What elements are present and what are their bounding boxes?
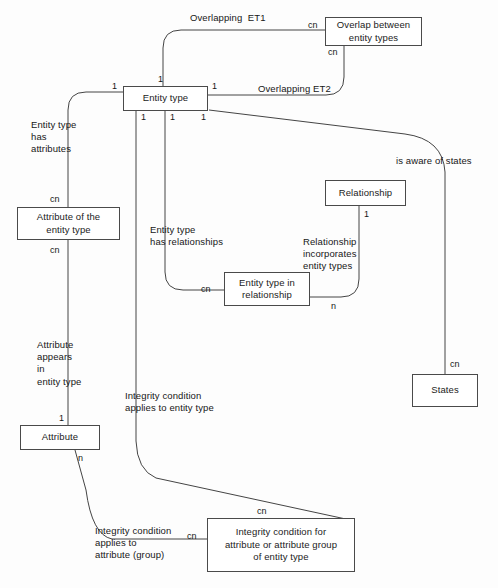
edge-entity-type-has-relationships: [165, 111, 224, 290]
cardinality-attribute-top: 1: [59, 413, 64, 423]
cardinality-attribute-of-et-bottom: cn: [50, 245, 60, 255]
cardinality-attribute-of-et-top: cn: [50, 194, 60, 204]
cardinality-overlap-left: cn: [308, 20, 318, 30]
entity-box-states[interactable]: States: [412, 374, 478, 407]
cardinality-entity-type-in-relationship-right: n: [331, 301, 336, 311]
label-attribute-appears-in-entity-type: Attribute appears in entity type: [37, 339, 81, 388]
cardinality-states-top: cn: [450, 359, 460, 369]
label-entity-type-has-relationships: Entity type has relationships: [150, 224, 223, 248]
entity-label: Relationship: [339, 187, 392, 200]
cardinality-relationship-bottom: 1: [364, 209, 369, 219]
entity-box-attribute[interactable]: Attribute: [20, 425, 100, 450]
entity-box-entity-type[interactable]: Entity type: [123, 86, 208, 111]
label-integrity-condition-applies-to-attribute-group: Integrity condition applies to attribute…: [95, 525, 171, 562]
cardinality-entity-type-bottom-2: 1: [170, 112, 175, 122]
er-diagram-canvas: Entity type Overlap between entity types…: [0, 0, 498, 588]
cardinality-entity-type-top: 1: [158, 74, 163, 84]
entity-box-relationship[interactable]: Relationship: [325, 180, 406, 206]
entity-label: Attribute: [42, 431, 78, 444]
cardinality-integrity-left: cn: [187, 531, 197, 541]
edge-overlapping-et1: [163, 30, 325, 86]
label-relationship-incorporates-entity-types: Relationship incorporates entity types: [303, 236, 356, 273]
entity-label: Integrity condition for attribute or att…: [225, 526, 337, 564]
label-overlapping-et2: Overlapping ET2: [258, 83, 331, 95]
entity-label: Entity type: [143, 92, 188, 105]
label-is-aware-of-states: is aware of states: [396, 155, 472, 167]
entity-label: Overlap between entity types: [337, 19, 410, 44]
entity-box-attribute-of-the-entity-type[interactable]: Attribute of the entity type: [17, 207, 120, 240]
label-entity-type-has-attributes: Entity type has attributes: [31, 119, 76, 156]
entity-box-overlap-between-entity-types[interactable]: Overlap between entity types: [325, 17, 422, 46]
entity-label: Attribute of the entity type: [37, 211, 100, 236]
label-integrity-condition-applies-to-entity-type: Integrity condition applies to entity ty…: [125, 390, 214, 414]
cardinality-entity-type-bottom-3: 1: [201, 112, 206, 122]
cardinality-attribute-bottom: n: [78, 453, 83, 463]
cardinality-overlap-bottom: cn: [328, 47, 338, 57]
entity-label: States: [431, 384, 459, 397]
cardinality-entity-type-left: 1: [112, 81, 117, 91]
label-overlapping-et1: Overlapping ET1: [190, 12, 266, 24]
entity-label: Entity type in relationship: [239, 277, 295, 302]
entity-box-integrity-condition-for-attribute[interactable]: Integrity condition for attribute or att…: [207, 518, 355, 572]
cardinality-integrity-top: cn: [257, 506, 267, 516]
cardinality-entity-type-right: 1: [212, 81, 217, 91]
entity-box-entity-type-in-relationship[interactable]: Entity type in relationship: [224, 272, 310, 306]
cardinality-entity-type-bottom-1: 1: [141, 112, 146, 122]
cardinality-entity-type-in-relationship-left: cn: [201, 284, 211, 294]
edge-integrity-condition-applies-to-entity-type: [136, 111, 355, 521]
